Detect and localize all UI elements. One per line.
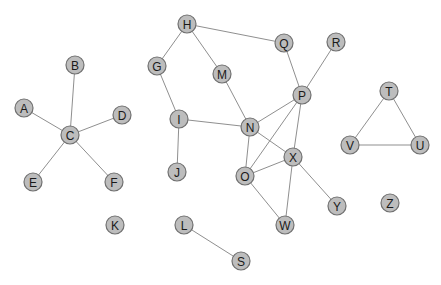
node-label: R <box>332 36 341 50</box>
node-label: G <box>152 60 161 74</box>
edge-x-w <box>285 157 293 225</box>
node-label: C <box>66 129 75 143</box>
node-label: D <box>118 109 127 123</box>
node-r: R <box>327 33 345 51</box>
node-g: G <box>148 57 166 75</box>
node-label: J <box>174 166 180 180</box>
graph-canvas: ABCDEFGHIJKLMNOPQRSTUVWXYZ <box>0 0 441 285</box>
node-label: V <box>346 139 354 153</box>
node-a: A <box>15 99 33 117</box>
node-label: Y <box>333 200 341 214</box>
node-z: Z <box>381 194 399 212</box>
node-f: F <box>105 173 123 191</box>
node-c: C <box>61 126 79 144</box>
node-o: O <box>236 167 254 185</box>
node-label: P <box>298 89 306 103</box>
edge-h-q <box>187 24 284 43</box>
edge-t-v <box>350 91 389 145</box>
edges-layer <box>24 24 420 261</box>
node-v: V <box>341 136 359 154</box>
node-label: S <box>237 255 245 269</box>
node-j: J <box>168 163 186 181</box>
edge-i-n <box>179 119 250 127</box>
node-label: O <box>240 170 249 184</box>
node-n: N <box>241 118 259 136</box>
node-m: M <box>213 65 231 83</box>
node-label: H <box>183 18 192 32</box>
node-h: H <box>178 15 196 33</box>
node-l: L <box>175 216 193 234</box>
node-label: E <box>29 176 37 190</box>
node-t: T <box>380 82 398 100</box>
node-label: U <box>416 139 425 153</box>
edge-c-b <box>70 65 75 135</box>
node-x: X <box>284 148 302 166</box>
node-i: I <box>170 110 188 128</box>
edge-l-s <box>184 225 241 261</box>
node-label: W <box>279 219 291 233</box>
node-e: E <box>24 173 42 191</box>
edge-x-y <box>293 157 337 206</box>
node-label: Z <box>386 197 393 211</box>
node-label: L <box>181 219 188 233</box>
node-label: N <box>246 121 255 135</box>
node-q: Q <box>275 34 293 52</box>
node-u: U <box>411 136 429 154</box>
node-label: A <box>20 102 28 116</box>
node-label: F <box>110 176 117 190</box>
node-d: D <box>113 106 131 124</box>
node-b: B <box>66 56 84 74</box>
node-w: W <box>276 216 294 234</box>
node-label: M <box>217 68 227 82</box>
node-label: T <box>385 85 393 99</box>
node-label: Q <box>279 37 288 51</box>
node-label: B <box>71 59 79 73</box>
edge-c-f <box>70 135 114 182</box>
node-p: P <box>293 86 311 104</box>
node-label: I <box>177 113 180 127</box>
node-k: K <box>106 216 124 234</box>
node-y: Y <box>328 197 346 215</box>
node-label: X <box>289 151 297 165</box>
node-label: K <box>111 219 119 233</box>
node-s: S <box>232 252 250 270</box>
